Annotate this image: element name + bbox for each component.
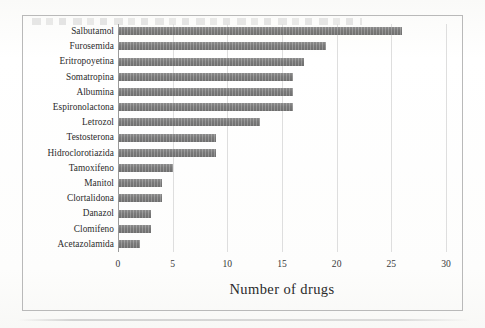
bar-row: [118, 132, 446, 146]
bar: [118, 225, 151, 233]
bar: [118, 88, 293, 96]
bar-row: [118, 208, 446, 222]
bar: [118, 210, 151, 218]
bar: [118, 103, 293, 111]
bar-row: [118, 101, 446, 115]
category-label: Acetazolamida: [24, 239, 114, 249]
bar-row: [118, 86, 446, 100]
x-axis-title: Number of drugs: [118, 281, 446, 298]
category-label: Manitol: [24, 178, 114, 188]
chart-figure: SalbutamolFurosemidaEritropoyetinaSomatr…: [0, 0, 485, 328]
bar: [118, 73, 293, 81]
value-axis-tick-labels: 051015202530: [118, 258, 446, 272]
category-label: Clortalidona: [24, 193, 114, 203]
x-tick-label: 20: [332, 258, 342, 270]
category-label: Danazol: [24, 208, 114, 218]
x-tick-label: 10: [223, 258, 233, 270]
x-tick-label: 30: [441, 258, 451, 270]
bar-row: [118, 25, 446, 39]
category-label: Eritropoyetina: [24, 56, 114, 66]
category-label: Testosterona: [24, 132, 114, 142]
bar-row: [118, 56, 446, 70]
category-axis-labels: SalbutamolFurosemidaEritropoyetinaSomatr…: [24, 24, 114, 252]
category-label: Furosemida: [24, 41, 114, 51]
bar-row: [118, 162, 446, 176]
bar: [118, 240, 140, 248]
bar: [118, 118, 260, 126]
category-label: Espironolactona: [24, 102, 114, 112]
category-label: Albumina: [24, 87, 114, 97]
bar-row: [118, 147, 446, 161]
bar: [118, 149, 216, 157]
category-label: Clomifeno: [24, 224, 114, 234]
category-label: Letrozol: [24, 117, 114, 127]
bar-row: [118, 40, 446, 54]
category-label: Hidroclorotiazida: [24, 148, 114, 158]
x-tick-label: 25: [387, 258, 397, 270]
bar-row: [118, 223, 446, 237]
bar: [118, 194, 162, 202]
bar: [118, 42, 326, 50]
bar: [118, 58, 304, 66]
x-tick-label: 15: [277, 258, 287, 270]
bar: [118, 179, 162, 187]
bar-row: [118, 116, 446, 130]
x-tick-label: 0: [116, 258, 121, 270]
bar: [118, 27, 402, 35]
bar-row: [118, 71, 446, 85]
category-label: Somatropina: [24, 72, 114, 82]
x-tick-label: 5: [170, 258, 175, 270]
category-label: Salbutamol: [24, 26, 114, 36]
category-label: Tamoxifeno: [24, 163, 114, 173]
bar-row: [118, 177, 446, 191]
plot-area: [118, 24, 446, 252]
gridline-30: [446, 24, 447, 252]
bar: [118, 134, 216, 142]
bar-series: [118, 24, 446, 252]
scan-artifact-line: [18, 319, 470, 321]
bar: [118, 164, 173, 172]
bar-row: [118, 192, 446, 206]
bar-row: [118, 238, 446, 252]
